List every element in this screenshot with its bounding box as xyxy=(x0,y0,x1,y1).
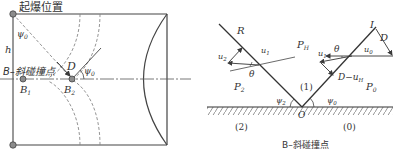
vector-normal-left xyxy=(229,48,242,62)
label-B1: B1 xyxy=(19,84,31,96)
reflected-wave-R xyxy=(219,24,302,107)
label-O: O xyxy=(298,110,306,120)
label-D-minus-uH: D−uH xyxy=(337,72,364,83)
label-region-2: (2) xyxy=(235,122,248,132)
incident-wave-I xyxy=(302,27,376,107)
label-psi0-O: ψ0 xyxy=(327,96,337,106)
label-D-right: D xyxy=(379,32,388,43)
label-theta-right: θ xyxy=(334,44,340,54)
dashed-front-4 xyxy=(74,81,100,145)
label-oblique-collision: B–斜碰撞点 xyxy=(3,66,56,77)
label-PH: PH xyxy=(296,39,310,51)
label-psi2: ψ2 xyxy=(276,96,286,106)
left-diagram: 起爆位置 ψ0 h B–斜碰撞点 B1 B2 D ψ0 xyxy=(0,0,191,148)
label-R: R xyxy=(236,25,245,36)
vector-u2 xyxy=(228,63,259,65)
label-psi0-right: ψ0 xyxy=(84,66,95,77)
node-detonation-top xyxy=(10,11,16,17)
label-region-1: (1) xyxy=(300,82,313,92)
label-detonation-position: 起爆位置 xyxy=(19,0,63,14)
diagram-canvas: 起爆位置 ψ0 h B–斜碰撞点 B1 B2 D ψ0 R I D xyxy=(0,0,396,155)
label-P2: P2 xyxy=(233,81,245,93)
label-u1-left: u1 xyxy=(261,46,270,56)
angle-arc-psi2 xyxy=(290,99,294,107)
label-D-left: D xyxy=(66,60,76,73)
label-P0: P0 xyxy=(365,81,377,93)
wave-front-arc xyxy=(144,14,168,145)
label-u0: u0 xyxy=(364,45,373,55)
label-u1-right: u1 xyxy=(318,49,327,59)
label-u2: u2 xyxy=(218,52,227,62)
vector-D-minus-uH xyxy=(321,63,333,75)
label-h: h xyxy=(5,44,11,55)
label-region-0: (0) xyxy=(343,122,356,132)
label-theta-left: θ xyxy=(249,69,255,79)
label-B2: B2 xyxy=(63,84,75,96)
caption-oblique-collision: B–斜碰撞点 xyxy=(282,139,329,150)
right-diagram: R I D u2 u1 θ PH u1 θ u0 D−uH P2 (1) P0 … xyxy=(207,19,393,150)
label-psi0-top: ψ0 xyxy=(17,29,28,40)
node-detonation-bottom xyxy=(10,142,16,148)
node-B2 xyxy=(69,76,75,82)
angle-arc-psi0-O xyxy=(310,98,314,107)
